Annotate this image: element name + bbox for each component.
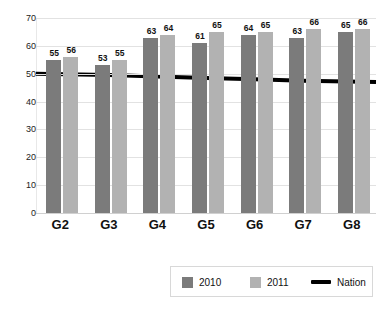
legend-item-nation[interactable]: Nation bbox=[311, 275, 366, 289]
bar[interactable] bbox=[209, 32, 224, 213]
bar[interactable] bbox=[112, 60, 127, 213]
bar[interactable] bbox=[63, 57, 78, 213]
legend-label-2011: 2011 bbox=[267, 277, 289, 288]
bar-value-label: 65 bbox=[206, 20, 228, 30]
legend-swatch-nation-icon bbox=[311, 280, 331, 284]
legend-item-2010[interactable]: 2010 bbox=[182, 275, 221, 289]
bar[interactable] bbox=[160, 35, 175, 213]
y-axis-tick-label: 60 bbox=[6, 41, 36, 51]
y-axis-tick-label: 10 bbox=[6, 180, 36, 190]
bar-group: 6165 bbox=[192, 18, 224, 213]
bar-group: 6364 bbox=[143, 18, 175, 213]
x-axis: G2G3G4G5G6G7G8 bbox=[36, 215, 376, 239]
x-axis-tick-label: G3 bbox=[87, 217, 131, 232]
bar[interactable] bbox=[143, 38, 158, 214]
y-axis-tick-label: 20 bbox=[6, 152, 36, 162]
bar-group: 6366 bbox=[289, 18, 321, 213]
y-axis-tick-label: 0 bbox=[6, 208, 36, 218]
bar[interactable] bbox=[258, 32, 273, 213]
x-axis-tick-label: G5 bbox=[184, 217, 228, 232]
x-axis-tick-label: G2 bbox=[38, 217, 82, 232]
bar[interactable] bbox=[192, 43, 207, 213]
legend-swatch-2010-icon bbox=[182, 277, 193, 288]
bar-value-label: 64 bbox=[157, 23, 179, 33]
y-axis-tick-label: 30 bbox=[6, 124, 36, 134]
legend-item-2011[interactable]: 2011 bbox=[250, 275, 289, 289]
plot-area: 0102030405060705556535563646165646563666… bbox=[36, 18, 376, 213]
x-axis-tick-label: G4 bbox=[135, 217, 179, 232]
gridline bbox=[36, 213, 376, 214]
bar-value-label: 66 bbox=[352, 17, 374, 27]
bar-value-label: 65 bbox=[255, 20, 277, 30]
bar[interactable] bbox=[289, 38, 304, 214]
x-axis-tick-label: G6 bbox=[233, 217, 277, 232]
bar[interactable] bbox=[306, 29, 321, 213]
bar-group: 6465 bbox=[241, 18, 273, 213]
bar[interactable] bbox=[241, 35, 256, 213]
y-axis-tick-label: 70 bbox=[6, 13, 36, 23]
x-axis-tick-label: G8 bbox=[330, 217, 374, 232]
chart-legend: 2010 2011 Nation bbox=[170, 266, 373, 297]
legend-label-2010: 2010 bbox=[199, 277, 221, 288]
legend-swatch-2011-icon bbox=[250, 277, 261, 288]
bar-group: 5556 bbox=[46, 18, 78, 213]
bar[interactable] bbox=[46, 60, 61, 213]
bar[interactable] bbox=[95, 65, 110, 213]
bar[interactable] bbox=[338, 32, 353, 213]
bar-value-label: 66 bbox=[303, 17, 325, 27]
bar-value-label: 61 bbox=[189, 31, 211, 41]
y-axis-tick-label: 40 bbox=[6, 97, 36, 107]
bar-value-label: 55 bbox=[109, 48, 131, 58]
bar-group: 6566 bbox=[338, 18, 370, 213]
x-axis-tick-label: G7 bbox=[281, 217, 325, 232]
bar-value-label: 56 bbox=[60, 45, 82, 55]
bar-chart: 0102030405060705556535563646165646563666… bbox=[0, 0, 382, 309]
bar-group: 5355 bbox=[95, 18, 127, 213]
y-axis-tick-label: 50 bbox=[6, 69, 36, 79]
bar[interactable] bbox=[355, 29, 370, 213]
legend-label-nation: Nation bbox=[337, 277, 366, 288]
